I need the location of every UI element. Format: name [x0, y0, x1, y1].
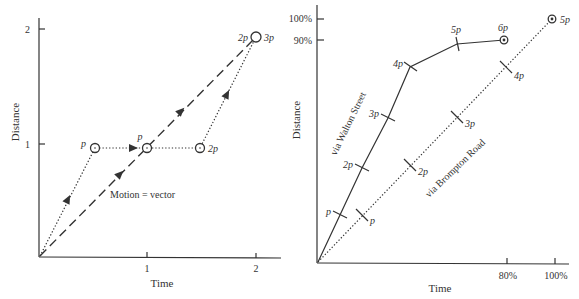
brompton-road-label: via Brompton Road	[423, 137, 487, 200]
brompton-road-line	[318, 20, 551, 262]
arrowhead-icon	[62, 193, 73, 205]
right-x-tick-label-80: 80%	[499, 270, 517, 281]
walton-label-2p: 2p	[343, 159, 353, 170]
walton-tick-p	[333, 211, 347, 218]
brompton-label-2p: 2p	[418, 166, 428, 177]
motion-vector-annotation: Motion = vector	[110, 189, 176, 200]
brompton-label-5p: 5p	[560, 14, 570, 25]
left-x-tick-label-2: 2	[254, 263, 259, 274]
left-label-2p: 2p	[208, 143, 218, 154]
left-label-2p-top: 2p	[238, 32, 248, 43]
walton-label-3p: 3p	[368, 108, 379, 119]
brompton-label-p: p	[369, 215, 375, 226]
right-x-tick-label-100: 100%	[544, 270, 567, 281]
walton-tick-3p	[381, 114, 395, 121]
right-y-tick-label-90: 90%	[294, 35, 312, 46]
walton-street-label: via Walton Street	[328, 90, 368, 157]
brompton-label-4p: 4p	[514, 70, 524, 81]
right-x-axis-title: Time	[429, 282, 452, 294]
left-x-tick-label-1: 1	[145, 263, 150, 274]
brompton-end-dot	[551, 18, 554, 21]
left-chart: 2 1 1 2 Time Distance p p 2p 2p 3p	[9, 18, 281, 289]
brompton-tick-p	[356, 209, 368, 221]
right-chart: 100% 90% 80% 100% Time Distance p 2p 3	[289, 5, 570, 294]
point-dot	[146, 147, 148, 149]
left-label-p-first: p	[80, 138, 86, 149]
walton-label-4p: 4p	[393, 58, 403, 69]
arrowhead-icon	[175, 105, 187, 117]
left-x-axis	[39, 257, 281, 258]
right-y-axis-title: Distance	[290, 101, 302, 140]
walton-tick-2p	[355, 164, 369, 171]
left-x-axis-title: Time	[151, 277, 174, 289]
arrowhead-icon	[221, 88, 232, 100]
diagram-canvas: 2 1 1 2 Time Distance p p 2p 2p 3p	[0, 0, 579, 299]
right-x-axis	[317, 263, 569, 264]
walton-label-5p: 5p	[451, 24, 461, 35]
brompton-tick-2p	[404, 159, 416, 171]
point-marker	[251, 32, 261, 42]
brompton-label-3p: 3p	[464, 118, 475, 129]
left-label-p-mid: p	[137, 131, 143, 142]
left-y-tick-label-1: 1	[25, 139, 30, 150]
left-label-3p-top: 3p	[263, 32, 274, 43]
arrowhead-icon	[129, 144, 138, 152]
point-dot	[199, 147, 201, 149]
walton-tick-4p	[404, 62, 417, 71]
walton-label-6p: 6p	[498, 22, 508, 33]
point-dot	[94, 147, 96, 149]
left-y-axis-title: Distance	[9, 103, 21, 142]
walton-end-dot	[503, 39, 506, 42]
walton-label-p: p	[325, 206, 331, 217]
right-y-tick-label-100: 100%	[289, 13, 312, 24]
left-y-tick-label-2: 2	[25, 24, 30, 35]
